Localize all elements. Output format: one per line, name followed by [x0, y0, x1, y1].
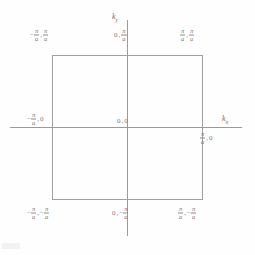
pi-over-a-fraction: π a	[123, 206, 128, 220]
pi-over-a-fraction: π a	[121, 28, 126, 42]
coord-label-middle-right: π a , 0	[200, 131, 213, 145]
coord-label-bottom-center: 0 , − π a	[112, 206, 128, 220]
pi-over-a-fraction: π a	[178, 206, 183, 220]
fraction-denominator: a	[180, 35, 185, 42]
pi-over-a-fraction: π a	[31, 112, 36, 126]
fraction-denominator: a	[178, 213, 183, 220]
fraction-denominator: a	[200, 138, 205, 145]
kx-axis-label: kx	[222, 114, 228, 125]
pi-over-a-fraction: π a	[44, 206, 49, 220]
pi-over-a-fraction: π a	[189, 28, 194, 42]
kx-axis-subscript: x	[226, 119, 229, 125]
pi-over-a-fraction: π a	[43, 28, 48, 42]
brillouin-zone-figure: ky kx − π a , π a 0 , π a π a	[0, 0, 255, 255]
coord-zero: 0	[209, 135, 213, 142]
fraction-denominator: a	[34, 35, 39, 42]
ky-axis-subscript: y	[116, 17, 119, 23]
fraction-denominator: a	[123, 213, 128, 220]
fraction-denominator: a	[121, 35, 126, 42]
scan-artifact	[2, 243, 20, 249]
fraction-denominator: a	[43, 35, 48, 42]
coord-label-origin: 0 , 0	[117, 118, 128, 125]
coord-zero: 0	[40, 116, 44, 123]
pi-over-a-fraction: π a	[180, 28, 185, 42]
pi-over-a-fraction: π a	[31, 206, 36, 220]
fraction-denominator: a	[191, 213, 196, 220]
coord-label-middle-left: − π a , 0	[27, 112, 43, 126]
fraction-denominator: a	[31, 213, 36, 220]
coord-zero: 0	[124, 118, 128, 125]
pi-over-a-fraction: π a	[200, 131, 205, 145]
coord-label-top-right: π a , π a	[180, 28, 194, 42]
first-brillouin-zone-square	[52, 55, 203, 200]
fraction-denominator: a	[31, 119, 36, 126]
pi-over-a-fraction: π a	[191, 206, 196, 220]
coord-label-bottom-right: π a , − π a	[178, 206, 196, 220]
coord-label-top-left: − π a , π a	[30, 28, 48, 42]
pi-over-a-fraction: π a	[34, 28, 39, 42]
coord-label-bottom-left: − π a , − π a	[27, 206, 49, 220]
ky-axis-label: ky	[112, 12, 118, 23]
fraction-denominator: a	[189, 35, 194, 42]
fraction-denominator: a	[44, 213, 49, 220]
coord-label-top-center: 0 , π a	[114, 28, 127, 42]
